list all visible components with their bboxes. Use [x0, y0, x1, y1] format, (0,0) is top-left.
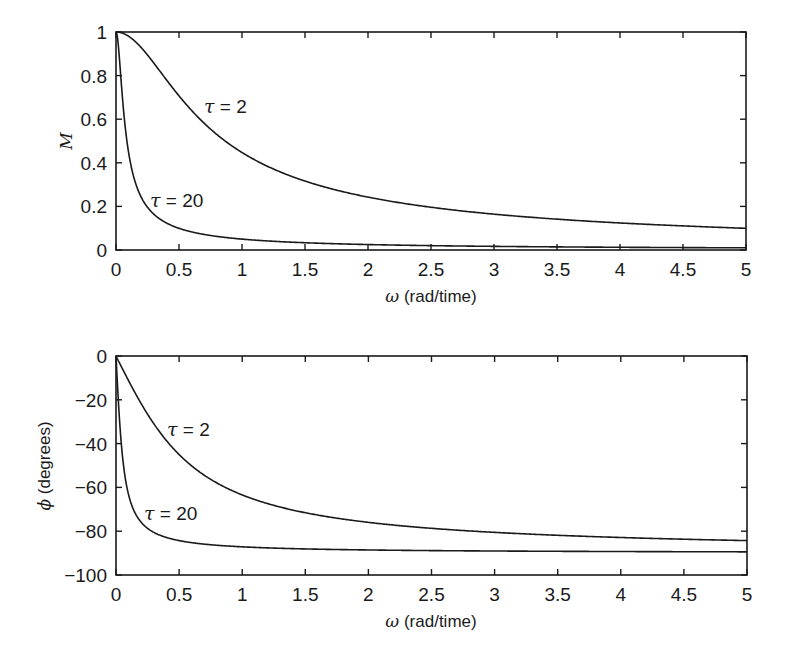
y-tick-label: −20 — [75, 390, 107, 411]
x-tick-label: 2.5 — [418, 584, 444, 605]
annotation-tau-2: τ = 2 — [167, 418, 210, 440]
x-axis-title: ω (rad/time) — [385, 611, 476, 631]
y-tick-label: −60 — [75, 477, 107, 498]
x-tick-labels: 00.511.522.533.544.55 — [111, 259, 752, 280]
annotation-tau-20: τ = 20 — [150, 189, 203, 211]
x-tick-label: 0 — [111, 584, 122, 605]
phase-plot: 00.511.522.533.544.55 −100−80−60−40−200 … — [34, 346, 752, 631]
x-tick-label: 0.5 — [166, 259, 192, 280]
y-axis-title: ϕ (degrees) — [34, 421, 54, 510]
y-tick-label: 0.2 — [81, 196, 107, 217]
x-tick-label: 5 — [741, 259, 752, 280]
y-tick-label: −40 — [75, 434, 107, 455]
x-tick-label: 3 — [489, 259, 500, 280]
x-tick-labels: 00.511.522.533.544.55 — [111, 584, 753, 605]
y-tick-label: 0 — [96, 346, 107, 367]
x-tick-label: 5 — [742, 584, 753, 605]
y-tick-label: 0 — [96, 240, 107, 261]
annotation-tau-2: τ = 2 — [204, 95, 247, 117]
x-tick-label: 3 — [489, 584, 500, 605]
x-tick-label: 4.5 — [670, 259, 696, 280]
x-tick-label: 1 — [237, 584, 248, 605]
x-tick-label: 4 — [616, 584, 627, 605]
x-tick-label: 4.5 — [671, 584, 697, 605]
x-tick-label: 4 — [615, 259, 626, 280]
x-axis-title: ω (rad/time) — [385, 286, 476, 306]
plot-frame — [116, 32, 746, 250]
plot-frame — [116, 356, 747, 575]
y-tick-labels: 00.20.40.60.81 — [81, 22, 108, 261]
x-tick-label: 1.5 — [292, 259, 318, 280]
x-tick-label: 2 — [363, 259, 374, 280]
magnitude-plot: 00.511.522.533.544.55 00.20.40.60.81 τ =… — [56, 22, 751, 306]
y-tick-label: 0.8 — [81, 66, 107, 87]
axis-ticks — [116, 356, 747, 575]
y-tick-label: 1 — [96, 22, 107, 43]
x-tick-label: 0.5 — [166, 584, 192, 605]
x-tick-label: 3.5 — [544, 584, 570, 605]
series-tau-2-line — [116, 32, 746, 228]
x-tick-label: 3.5 — [544, 259, 570, 280]
x-tick-label: 1 — [237, 259, 248, 280]
y-tick-labels: −100−80−60−40−200 — [64, 346, 107, 586]
series-tau-20-line — [116, 32, 746, 248]
y-tick-label: 0.6 — [81, 109, 107, 130]
series-tau-20-line — [116, 356, 747, 552]
x-tick-label: 2.5 — [418, 259, 444, 280]
x-tick-label: 2 — [363, 584, 374, 605]
axis-ticks — [116, 32, 746, 250]
y-axis-title: M — [56, 132, 76, 151]
annotation-tau-20: τ = 20 — [144, 502, 197, 524]
x-tick-label: 1.5 — [292, 584, 318, 605]
x-tick-label: 0 — [111, 259, 122, 280]
series-tau-2-line — [116, 356, 747, 541]
frequency-response-figure: 00.511.522.533.544.55 00.20.40.60.81 τ =… — [0, 0, 788, 654]
y-tick-label: 0.4 — [81, 153, 108, 174]
y-tick-label: −100 — [64, 565, 107, 586]
y-tick-label: −80 — [75, 521, 107, 542]
